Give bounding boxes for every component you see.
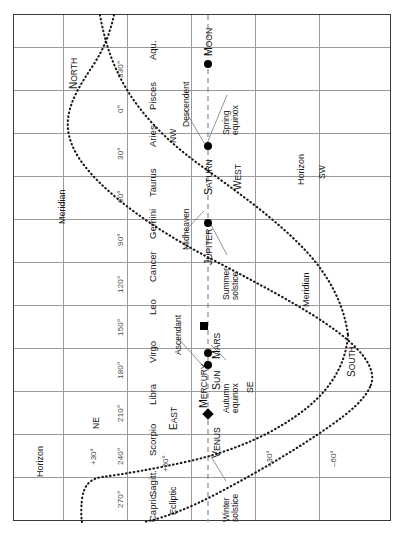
- zodiac-capricorn: Capric.: [148, 492, 158, 522]
- label-mercury: MERCURY: [198, 364, 209, 409]
- plot-frame: 330° 0° 30° 60° 90° 120° 150° 180° 210° …: [13, 14, 391, 521]
- ecliptic-label: Ecliptic: [169, 486, 178, 515]
- zodiac-virgo: Virgo: [148, 341, 158, 363]
- compass-sw: SW: [318, 165, 327, 179]
- altitude-plus60: +30°: [90, 448, 98, 465]
- marker-venus: [202, 408, 213, 419]
- annotation-spring-equinox: Spring equinox: [222, 105, 240, 135]
- spring-equinox-line2: equinox: [231, 105, 240, 135]
- marker-saturn: [204, 142, 212, 150]
- annotation-descendent: Descendent: [182, 82, 191, 127]
- compass-south: SOUTH: [347, 346, 357, 377]
- meridian-label-left: Meridian: [58, 189, 67, 224]
- winter-solstice-line2: solstice: [231, 494, 240, 522]
- longitude-tick-270: 270°: [117, 491, 125, 508]
- zodiac-scorpio: Scorpio: [148, 424, 158, 456]
- meridian-curve: [68, 15, 372, 387]
- label-sun: SUN: [211, 371, 222, 390]
- gridline-v: [127, 15, 128, 520]
- label-moon: MOON: [203, 28, 214, 56]
- zodiac-leo: Leo: [148, 299, 158, 315]
- annotation-midheaven: Midheaven: [182, 208, 191, 250]
- compass-se: SE: [246, 382, 255, 393]
- label-jupiter: JUPITER: [203, 229, 214, 265]
- zodiac-pisces: Pisces: [148, 82, 158, 110]
- gridline-h: [14, 348, 390, 349]
- longitude-tick-120: 120°: [117, 276, 125, 293]
- gridline-h: [14, 219, 390, 220]
- compass-west: WEST: [233, 164, 243, 190]
- zodiac-cancer: Cancer: [148, 251, 158, 282]
- annotation-summer-solstice: Summer solstice: [222, 268, 240, 300]
- annotation-ascendant: Ascendant: [174, 315, 183, 355]
- label-saturn: SATURN: [203, 159, 214, 195]
- altitude-minus60: –60°: [330, 450, 338, 467]
- annotation-winter-solstice: Winter solstice: [222, 494, 240, 522]
- annotation-autumn-equinox: Autumn equinox: [222, 383, 240, 413]
- marker-mars: [200, 322, 208, 330]
- zodiac-gemini: Gemini: [148, 209, 158, 239]
- longitude-tick-180: 180°: [117, 362, 125, 379]
- gridline-h: [14, 477, 390, 478]
- compass-ne: NE: [92, 417, 101, 429]
- gridline-h: [14, 133, 390, 134]
- altitude-plus30: +60°: [162, 455, 170, 472]
- horizon-label-left: Horizon: [36, 446, 45, 477]
- longitude-tick-330: 330°: [117, 61, 125, 78]
- longitude-tick-90: 90°: [117, 233, 125, 246]
- longitude-tick-0: 0°: [117, 105, 125, 113]
- sky-chart: 330° 0° 30° 60° 90° 120° 150° 180° 210° …: [0, 0, 404, 545]
- compass-east: EAST: [169, 407, 179, 430]
- gridline-h: [14, 176, 390, 177]
- gridline-h: [14, 434, 390, 435]
- marker-jupiter: [204, 219, 212, 227]
- zodiac-taurus: Taurus: [148, 168, 158, 197]
- longitude-tick-240: 240°: [117, 448, 125, 465]
- gridline-v: [63, 15, 64, 520]
- label-venus: VENUS: [211, 427, 222, 458]
- altitude-minus30: –30°: [266, 450, 274, 467]
- gridline-h: [14, 305, 390, 306]
- label-mars: MARS: [211, 333, 222, 359]
- longitude-tick-30: 30°: [117, 147, 125, 160]
- marker-mercury: [204, 349, 212, 357]
- longitude-tick-210: 210°: [117, 405, 125, 422]
- gridline-v: [319, 15, 320, 520]
- longitude-tick-150: 150°: [117, 319, 125, 336]
- zodiac-libra: Libra: [148, 384, 158, 405]
- zodiac-aries: Aries: [148, 125, 158, 147]
- marker-sun: [204, 361, 212, 369]
- compass-nw: NW: [169, 129, 178, 143]
- gridline-h: [14, 90, 390, 91]
- longitude-tick-60: 60°: [117, 190, 125, 203]
- meridian-label-right: Meridian: [302, 272, 311, 307]
- summer-solstice-line2: solstice: [231, 268, 240, 300]
- horizon-label-right: Horizon: [297, 154, 306, 185]
- zodiac-aquarius: Aqu.: [148, 40, 158, 60]
- gridline-v: [191, 15, 192, 520]
- curves-overlay: [14, 15, 392, 522]
- marker-moon: [204, 60, 212, 68]
- gridline-v: [255, 15, 256, 520]
- autumn-equinox-line2: equinox: [231, 383, 240, 413]
- compass-north: NORTH: [69, 58, 79, 89]
